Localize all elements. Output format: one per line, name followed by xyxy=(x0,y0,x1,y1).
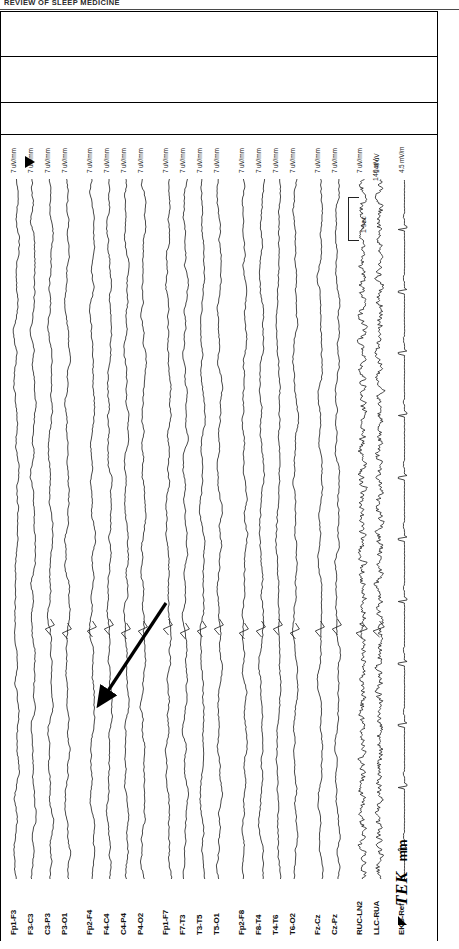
channel-row: Fp1-F37 uV/mm xyxy=(8,11,25,941)
channel-gain-label: 7 uV/mm xyxy=(289,148,296,173)
channel-gain-label: 7 uV/mm xyxy=(356,148,363,173)
channel-label: T6-O2 xyxy=(288,913,297,935)
channel-waveform xyxy=(270,179,287,879)
channel-waveform xyxy=(160,179,177,879)
channel-waveform xyxy=(177,179,194,879)
channel-label: Fp1-F3 xyxy=(9,910,18,935)
triangle-marker-icon xyxy=(398,916,407,925)
time-calibration-bracket xyxy=(348,197,359,241)
running-head-rule xyxy=(0,9,459,10)
channel-waveform xyxy=(371,179,388,879)
channel-row: F4-C47 uV/mm xyxy=(101,11,118,941)
channel-row: Cz-Pz7 uV/mm xyxy=(329,11,346,941)
channel-waveform xyxy=(236,179,253,879)
channel-label: RUC-LN2 xyxy=(355,901,364,935)
channel-row: C4-P47 uV/mm xyxy=(118,11,135,941)
channel-label: Fz-Cz xyxy=(313,915,322,935)
channel-row: F7-T37 uV/mm xyxy=(177,11,194,941)
channel-row: Fz-Cz7 uV/mm xyxy=(312,11,329,941)
channel-row: EKG-Ref4.5 mV/m xyxy=(396,11,413,941)
channel-waveform xyxy=(312,179,329,879)
channel-gain-label: 7 uV/mm xyxy=(10,148,17,173)
channel-waveform xyxy=(101,179,118,879)
time-calibration-label: 1 sec xyxy=(360,216,367,233)
channel-waveform xyxy=(8,179,25,879)
channel-row: LLC-RUA140 uV xyxy=(371,11,388,941)
channel-label: P4-O2 xyxy=(136,913,145,935)
channel-label: LLC-RUA xyxy=(372,901,381,935)
channel-waveform xyxy=(84,179,101,879)
channel-row: P4-O27 uV/mm xyxy=(135,11,152,941)
channel-waveform xyxy=(42,179,59,879)
channel-waveform xyxy=(253,179,270,879)
onset-triangle-marker xyxy=(24,155,36,169)
channel-label: P3-O1 xyxy=(60,913,69,935)
channel-row: Fp1-F77 uV/mm xyxy=(160,11,177,941)
channel-waveform xyxy=(354,179,371,879)
channel-gain-label: 7 uV/mm xyxy=(272,148,279,173)
channel-row: C3-P37 uV/mm xyxy=(42,11,59,941)
channel-label: Fp2-F4 xyxy=(85,910,94,935)
channel-label: T3-T5 xyxy=(195,915,204,935)
spike-artifact-pointer xyxy=(84,595,174,745)
channel-label: F3-C3 xyxy=(26,914,35,935)
channel-row: T5-O17 uV/mm xyxy=(211,11,228,941)
channel-gain-label: 7 uV/mm xyxy=(238,148,245,173)
channel-gain-label: 7 uV/mm xyxy=(86,148,93,173)
tek-logo: TEK mm xyxy=(392,840,412,925)
channel-label: T4-T6 xyxy=(271,915,280,935)
channel-label: F8-T4 xyxy=(254,915,263,935)
eeg-printout-rotated-wrapper: Fp1-F37 uV/mmF3-C37 uV/mmC3-P37 uV/mmP3-… xyxy=(0,11,440,943)
channel-gain-label: 7 uV/mm xyxy=(103,148,110,173)
channel-gain-label: 4.5 mV/m xyxy=(398,147,405,173)
channel-label: F4-C4 xyxy=(102,914,111,935)
channel-label: Fp2-F8 xyxy=(237,910,246,935)
channel-gain-label: 7 uV/mm xyxy=(314,148,321,173)
channel-row: RUC-LN27 uV/mm xyxy=(354,11,371,941)
eeg-printout-sheet: Fp1-F37 uV/mmF3-C37 uV/mmC3-P37 uV/mmP3-… xyxy=(0,11,438,941)
channel-label: T5-O1 xyxy=(212,913,221,935)
channel-waveform xyxy=(118,179,135,879)
channel-waveform xyxy=(211,179,228,879)
channel-gain-label: 7 uV/mm xyxy=(162,148,169,173)
channel-waveform xyxy=(396,179,413,879)
channel-label: Cz-Pz xyxy=(330,914,339,935)
channel-gain-label: 7 uV/mm xyxy=(196,148,203,173)
channel-row: Fp2-F87 uV/mm xyxy=(236,11,253,941)
channel-gain-label: 7 uV/mm xyxy=(44,148,51,173)
channel-label: Fp1-F7 xyxy=(161,910,170,935)
channel-waveform xyxy=(25,179,42,879)
channel-row: T4-T67 uV/mm xyxy=(270,11,287,941)
channel-label: C4-P4 xyxy=(119,913,128,935)
channel-row: P3-O17 uV/mm xyxy=(59,11,76,941)
channel-waveform xyxy=(287,179,304,879)
tek-wordmark: TEK xyxy=(392,871,412,906)
channel-waveform xyxy=(329,179,346,879)
channel-row: F3-C37 uV/mm xyxy=(25,11,42,941)
channel-row: F8-T47 uV/mm xyxy=(253,11,270,941)
channel-gain-label: 7 uV/mm xyxy=(331,148,338,173)
channel-gain-label: 7 uV/mm xyxy=(61,148,68,173)
channel-row: T6-O27 uV/mm xyxy=(287,11,304,941)
channel-gain-label: 7 uV/mm xyxy=(120,148,127,173)
tek-mark-icon: mm xyxy=(395,840,410,861)
channel-row: T3-T57 uV/mm xyxy=(194,11,211,941)
channel-gain-label: 7 uV/mm xyxy=(179,148,186,173)
journal-running-head: REVIEW OF SLEEP MEDICINE xyxy=(4,0,120,7)
channel-row: Fp2-F47 uV/mm xyxy=(84,11,101,941)
figure-page: REVIEW OF SLEEP MEDICINE Fp1-F37 uV/mmF3… xyxy=(0,0,459,949)
channel-waveform xyxy=(59,179,76,879)
channel-label: F7-T3 xyxy=(178,915,187,935)
emg-amplitude-label: 140 uV xyxy=(372,159,379,181)
channel-gain-label: 7 uV/mm xyxy=(213,148,220,173)
channel-waveform xyxy=(135,179,152,879)
channel-waveform xyxy=(194,179,211,879)
channel-gain-label: 7 uV/mm xyxy=(255,148,262,173)
channel-label: C3-P3 xyxy=(43,913,52,935)
channel-gain-label: 7 uV/mm xyxy=(137,148,144,173)
